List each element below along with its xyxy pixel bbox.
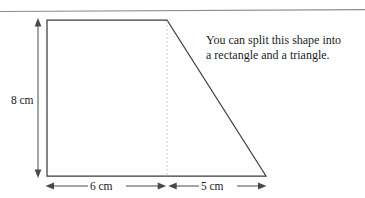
arrow-down-icon xyxy=(35,170,42,179)
arrow-up-icon xyxy=(35,18,42,27)
geometry-figure-page: 8 cm 6 cm 5 cm You can split this shape … xyxy=(0,0,365,198)
arrow-right-icon xyxy=(158,183,167,190)
arrow-right-icon xyxy=(258,183,267,190)
height-dimension xyxy=(35,18,42,178)
annotation-text: You can split this shape into a rectangl… xyxy=(206,33,365,62)
annotation-line-2: a rectangle and a triangle. xyxy=(206,48,365,63)
height-label: 8 cm xyxy=(11,94,33,106)
page-rule xyxy=(0,10,365,12)
figure-canvas xyxy=(0,0,365,198)
base-right-label: 5 cm xyxy=(201,180,223,192)
base-left-label: 6 cm xyxy=(90,180,112,192)
arrow-left-icon xyxy=(168,183,177,190)
arrow-left-icon xyxy=(46,183,55,190)
annotation-line-1: You can split this shape into xyxy=(206,33,365,48)
